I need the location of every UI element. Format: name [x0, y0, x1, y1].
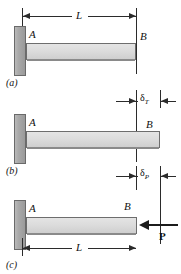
point-label-b-A: A [29, 117, 36, 128]
deltaT-arrow-left [129, 98, 136, 104]
force-arrow-head-P [139, 220, 149, 230]
point-label-c-A: A [29, 203, 36, 214]
force-arrow-shaft-P [148, 224, 178, 226]
dimension-label-a-L: L [76, 10, 82, 21]
panel-c: δP A B P L (c) [0, 176, 181, 274]
dimension-arrow-c-left [23, 245, 30, 251]
bar-c [26, 217, 137, 234]
delta-subscript-b: T [145, 98, 149, 106]
extension-line-a-right [136, 8, 137, 74]
deltaP-arrow-right [161, 173, 168, 179]
dimension-arrow-a-left [23, 13, 30, 19]
panel-caption-c: (c) [6, 260, 17, 270]
fixed-support-wall-c [14, 200, 26, 250]
point-label-a-A: A [29, 29, 36, 40]
panel-a: L A B (a) [0, 0, 181, 92]
panel-b: δT A B (b) [0, 88, 181, 180]
deflection-label-c-deltaP: δP [140, 168, 149, 181]
point-label-b-B: B [146, 119, 153, 130]
dimension-arrow-c-right [129, 245, 136, 251]
deflection-label-b-deltaT: δT [140, 93, 149, 106]
point-label-c-B: B [124, 201, 131, 212]
bar-a [26, 43, 136, 60]
dimension-arrow-a-right [129, 13, 136, 19]
extension-line-c-new-end [136, 166, 137, 190]
panel-caption-b: (b) [6, 166, 18, 176]
delta-subscript-c: P [145, 173, 149, 181]
dimension-label-c-L: L [76, 242, 82, 253]
deltaT-arrow-right [161, 98, 168, 104]
fixed-support-wall-b [14, 114, 26, 164]
force-label-P: P [159, 231, 166, 242]
bar-b [26, 131, 160, 148]
point-label-a-B: B [140, 31, 147, 42]
mechanics-figure: L A B (a) δT A B (b) [0, 0, 181, 274]
panel-caption-a: (a) [6, 78, 18, 88]
deltaP-arrow-left [129, 173, 136, 179]
fixed-support-wall-a [14, 26, 26, 76]
